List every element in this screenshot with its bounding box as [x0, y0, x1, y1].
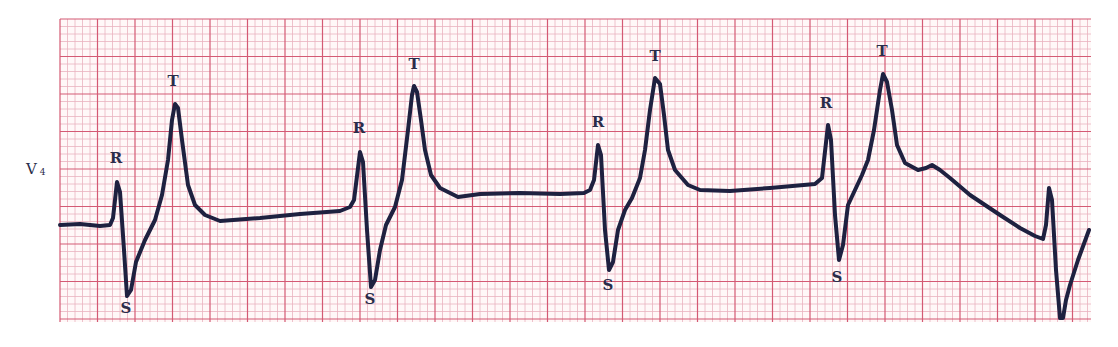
wave-label-s: S — [832, 268, 843, 286]
wave-label-t: T — [167, 72, 179, 90]
lead-letter: V — [26, 160, 37, 178]
wave-label-t: T — [876, 42, 888, 60]
wave-label-t: T — [408, 55, 420, 73]
lead-label: V4 — [26, 160, 46, 178]
ecg-strip: RSTRSTRSTRST — [0, 0, 1118, 347]
grid-background — [60, 19, 1091, 322]
wave-label-r: R — [110, 149, 123, 167]
wave-label-t: T — [649, 47, 661, 65]
wave-label-s: S — [365, 290, 376, 308]
wave-label-r: R — [353, 119, 366, 137]
wave-label-s: S — [603, 276, 614, 294]
wave-label-r: R — [592, 113, 605, 131]
wave-label-s: S — [121, 299, 132, 317]
lead-number: 4 — [40, 167, 46, 177]
wave-label-r: R — [820, 94, 833, 112]
